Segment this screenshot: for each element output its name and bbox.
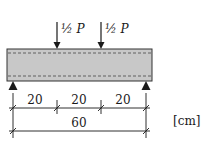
support-right-icon — [142, 81, 151, 90]
load-arrow-right — [98, 22, 105, 49]
dim-total: 60 — [71, 116, 86, 130]
load-arrow-left — [54, 22, 61, 49]
support-left-icon — [9, 81, 18, 90]
dim-segment-2: 20 — [71, 93, 86, 107]
dim-segment-1: 20 — [27, 93, 42, 107]
beam-diagram: ½ P ½ P 20 20 20 60 [cm] — [0, 0, 204, 144]
load-label-right: ½ P — [105, 22, 129, 36]
load-label-left: ½ P — [61, 22, 85, 36]
dim-segment-3: 20 — [115, 93, 130, 107]
unit-label: [cm] — [173, 114, 200, 128]
